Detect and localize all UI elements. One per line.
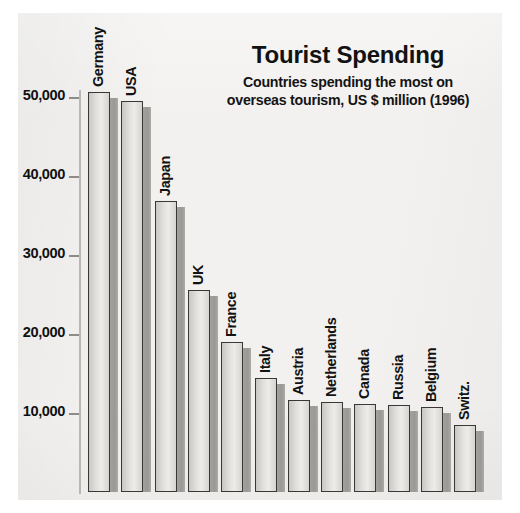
bar[interactable] (188, 290, 210, 492)
bar-shadow (443, 413, 451, 492)
bar-category-label: Russia (390, 355, 406, 400)
bar[interactable] (121, 101, 143, 492)
bar[interactable] (155, 201, 177, 492)
bar-category-label: Austria (290, 347, 306, 394)
y-axis-tick-mark (69, 176, 79, 178)
bar-shadow (476, 431, 484, 492)
bar-category-label: Japan (157, 156, 173, 196)
bar-category-label: UK (190, 265, 206, 285)
bar-category-label: Canada (356, 349, 372, 399)
y-axis-tick-mark (69, 334, 79, 336)
bar-shadow (143, 107, 151, 492)
bar-shadow (243, 348, 251, 492)
y-axis-tick-mark (69, 255, 79, 257)
bar-shadow (376, 410, 384, 492)
chart-subtitle: Countries spending the most on overseas … (200, 74, 496, 110)
y-axis-tick-mark (69, 413, 79, 415)
bar-group: Germany (88, 92, 118, 492)
bar-shadow (310, 406, 318, 492)
y-axis-tick-label: 30,000 (23, 245, 65, 261)
y-axis-tick-label: 40,000 (23, 166, 65, 182)
chart-subtitle-line-1: Countries spending the most on (200, 74, 496, 92)
bar-group: Canada (354, 404, 384, 492)
bar-group: Japan (155, 201, 185, 492)
y-axis-tick-label: 10,000 (23, 403, 65, 419)
bar-group: Netherlands (321, 402, 351, 492)
chart-subtitle-line-2: overseas tourism, US $ million (1996) (200, 92, 496, 110)
bar-group: USA (121, 101, 151, 492)
bar-group: Switz. (454, 425, 484, 492)
bar-shadow (343, 408, 351, 492)
bar-category-label: Switz. (456, 381, 472, 420)
bar[interactable] (88, 92, 110, 492)
bar[interactable] (421, 407, 443, 492)
bar-category-label: Italy (257, 346, 273, 373)
bar-category-label: Germany (90, 27, 106, 87)
page-title: Tourist Spending (200, 42, 496, 67)
bar-category-label: USA (123, 67, 139, 96)
bar[interactable] (221, 342, 243, 492)
chart-figure: Tourist Spending Countries spending the … (0, 0, 520, 513)
bar-shadow (110, 98, 118, 492)
y-axis-line (79, 90, 81, 494)
y-axis-tick-mark (69, 97, 79, 99)
bar-group: France (221, 342, 251, 492)
bar[interactable] (255, 378, 277, 492)
bar-category-label: Netherlands (323, 318, 339, 397)
y-axis-tick-label: 20,000 (23, 324, 65, 340)
bar[interactable] (321, 402, 343, 492)
y-axis-tick-label: 50,000 (23, 87, 65, 103)
bar[interactable] (354, 404, 376, 492)
bar-category-label: Belgium (423, 348, 439, 402)
bar-category-label: France (223, 292, 239, 337)
bar-shadow (210, 296, 218, 492)
bar-shadow (410, 411, 418, 492)
title-block: Tourist Spending Countries spending the … (200, 42, 496, 110)
bar[interactable] (454, 425, 476, 492)
bar-shadow (277, 384, 285, 492)
bar-group: UK (188, 290, 218, 492)
bar-group: Russia (388, 405, 418, 492)
bar-group: Belgium (421, 407, 451, 492)
bar-group: Italy (255, 378, 285, 492)
bar-group: Austria (288, 400, 318, 492)
bar[interactable] (288, 400, 310, 492)
bar[interactable] (388, 405, 410, 492)
bar-shadow (177, 207, 185, 492)
